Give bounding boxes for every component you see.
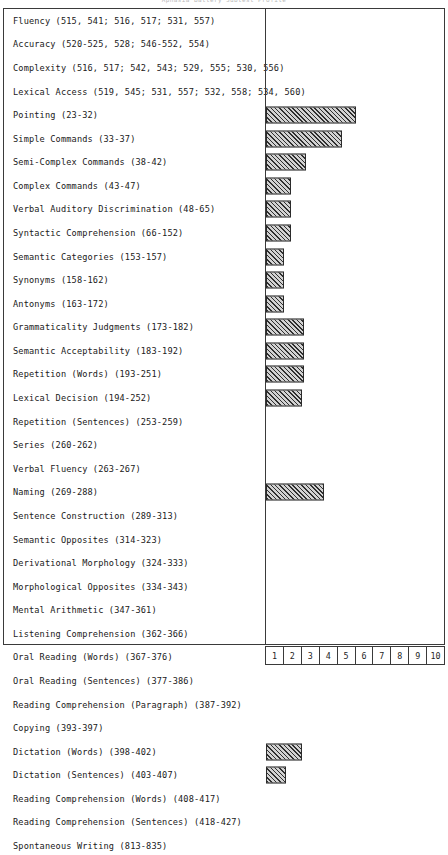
category-label: Fluency (515, 541; 516, 517; 531, 557) bbox=[13, 16, 215, 26]
category-row: Oral Reading (Sentences) (377-386) bbox=[4, 669, 265, 693]
bar-row bbox=[265, 457, 444, 481]
category-row: Dictation (Sentences) (403-407) bbox=[4, 764, 265, 788]
bar-row bbox=[265, 33, 444, 57]
category-label: Reading Comprehension (Sentences) (418-4… bbox=[13, 817, 242, 827]
category-row: Copying (393-397) bbox=[4, 716, 265, 740]
category-row: Morphological Opposites (334-343) bbox=[4, 575, 265, 599]
bar-row bbox=[265, 198, 444, 222]
category-label: Semi-Complex Commands (38-42) bbox=[13, 157, 167, 167]
category-row: Lexical Decision (194-252) bbox=[4, 386, 265, 410]
bar-row bbox=[265, 504, 444, 528]
category-row: Grammaticality Judgments (173-182) bbox=[4, 316, 265, 340]
bar-row bbox=[265, 9, 444, 33]
bar bbox=[266, 154, 306, 171]
category-row: Pointing (23-32) bbox=[4, 103, 265, 127]
category-row: Syntactic Comprehension (66-152) bbox=[4, 221, 265, 245]
category-row: Fluency (515, 541; 516, 517; 531, 557) bbox=[4, 9, 265, 33]
category-label: Derivational Morphology (324-333) bbox=[13, 558, 189, 568]
bar bbox=[266, 743, 302, 760]
bar bbox=[266, 767, 286, 784]
axis-tick: 1 bbox=[266, 647, 284, 664]
category-label: Grammaticality Judgments (173-182) bbox=[13, 322, 194, 332]
bar bbox=[266, 272, 284, 289]
category-row: Synonyms (158-162) bbox=[4, 268, 265, 292]
bar bbox=[266, 342, 304, 359]
bar-row bbox=[265, 245, 444, 269]
bar-row bbox=[265, 481, 444, 505]
bar-row bbox=[265, 764, 444, 788]
category-label: Reading Comprehension (Words) (408-417) bbox=[13, 794, 221, 804]
category-label: Semantic Acceptability (183-192) bbox=[13, 346, 183, 356]
category-label: Series (260-262) bbox=[13, 440, 98, 450]
bar bbox=[266, 390, 302, 407]
category-row: Dictation (Words) (398-402) bbox=[4, 740, 265, 764]
axis-tick: 2 bbox=[284, 647, 302, 664]
bar bbox=[266, 366, 304, 383]
bar bbox=[266, 295, 284, 312]
category-row: Accuracy (520-525, 528; 546-552, 554) bbox=[4, 33, 265, 57]
category-row: Repetition (Sentences) (253-259) bbox=[4, 410, 265, 434]
category-label: Repetition (Sentences) (253-259) bbox=[13, 417, 183, 427]
category-label: Lexical Decision (194-252) bbox=[13, 393, 151, 403]
bar-row bbox=[265, 433, 444, 457]
category-row: Listening Comprehension (362-366) bbox=[4, 622, 265, 646]
bar-row bbox=[265, 150, 444, 174]
category-label: Pointing (23-32) bbox=[13, 110, 98, 120]
category-label: Verbal Fluency (263-267) bbox=[13, 464, 141, 474]
bars-plot-area bbox=[265, 9, 444, 644]
category-label: Semantic Categories (153-157) bbox=[13, 252, 167, 262]
category-row: Mental Arithmetic (347-361) bbox=[4, 598, 265, 622]
category-label: Accuracy (520-525, 528; 546-552, 554) bbox=[13, 39, 210, 49]
category-row: Spontaneous Writing (813-835) bbox=[4, 834, 265, 855]
category-row: Verbal Auditory Discrimination (48-65) bbox=[4, 198, 265, 222]
category-label: Spontaneous Writing (813-835) bbox=[13, 841, 167, 851]
bar bbox=[266, 201, 291, 218]
category-row: Antonyms (163-172) bbox=[4, 292, 265, 316]
category-label: Semantic Opposites (314-323) bbox=[13, 535, 162, 545]
category-label: Syntactic Comprehension (66-152) bbox=[13, 228, 183, 238]
bar-row bbox=[265, 316, 444, 340]
axis-bottom-rule bbox=[3, 644, 445, 645]
bar-row bbox=[265, 221, 444, 245]
category-label: Lexical Access (519, 545; 531, 557; 532,… bbox=[13, 87, 306, 97]
bar-row bbox=[265, 103, 444, 127]
bar-row bbox=[265, 811, 444, 835]
category-row: Reading Comprehension (Words) (408-417) bbox=[4, 787, 265, 811]
category-label: Sentence Construction (289-313) bbox=[13, 511, 178, 521]
category-row: Complex Commands (43-47) bbox=[4, 174, 265, 198]
category-label-column: Fluency (515, 541; 516, 517; 531, 557)Ac… bbox=[4, 9, 265, 644]
bar bbox=[266, 319, 304, 336]
bar-row bbox=[265, 787, 444, 811]
axis-tick: 4 bbox=[320, 647, 338, 664]
category-row: Sentence Construction (289-313) bbox=[4, 504, 265, 528]
bar-row bbox=[265, 693, 444, 717]
category-label: Dictation (Words) (398-402) bbox=[13, 747, 157, 757]
bar-row bbox=[265, 127, 444, 151]
category-row: Verbal Fluency (263-267) bbox=[4, 457, 265, 481]
category-row: Complexity (516, 517; 542, 543; 529, 555… bbox=[4, 56, 265, 80]
bar-row bbox=[265, 622, 444, 646]
chart-plot-frame: Fluency (515, 541; 516, 517; 531, 557)Ac… bbox=[3, 8, 445, 645]
bar-row bbox=[265, 339, 444, 363]
category-row: Semantic Opposites (314-323) bbox=[4, 528, 265, 552]
category-row: Lexical Access (519, 545; 531, 557; 532,… bbox=[4, 80, 265, 104]
category-row: Naming (269-288) bbox=[4, 481, 265, 505]
bar-row bbox=[265, 292, 444, 316]
bar-row bbox=[265, 363, 444, 387]
bar-row bbox=[265, 528, 444, 552]
axis-tick: 10 bbox=[427, 647, 445, 664]
category-label: Reading Comprehension (Paragraph) (387-3… bbox=[13, 700, 242, 710]
chart-title: Aphasia Battery Subtest Profile bbox=[0, 0, 448, 4]
bar-row bbox=[265, 551, 444, 575]
axis-tick: 8 bbox=[391, 647, 409, 664]
bar bbox=[266, 248, 284, 265]
bar-row bbox=[265, 80, 444, 104]
bar bbox=[266, 224, 291, 241]
category-label: Oral Reading (Sentences) (377-386) bbox=[13, 676, 194, 686]
bar-row bbox=[265, 386, 444, 410]
bar-row bbox=[265, 575, 444, 599]
category-row: Derivational Morphology (324-333) bbox=[4, 551, 265, 575]
bar-row bbox=[265, 669, 444, 693]
category-row: Simple Commands (33-37) bbox=[4, 127, 265, 151]
category-label: Complexity (516, 517; 542, 543; 529, 555… bbox=[13, 63, 285, 73]
